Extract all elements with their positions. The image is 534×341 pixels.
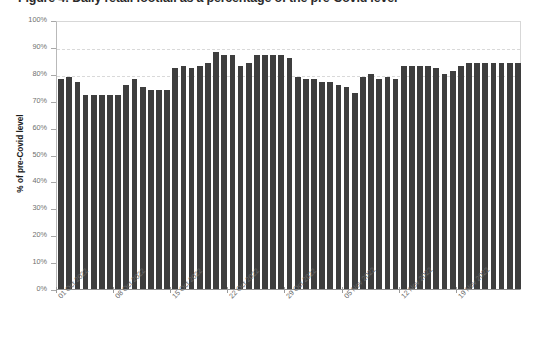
bar [450,71,456,289]
y-tick-label: 10% [32,257,47,266]
bar [123,85,129,289]
bar [213,52,219,289]
bar [156,90,162,289]
plot-area [56,21,521,290]
bar [409,66,415,289]
bar [205,63,211,289]
y-tick-label: 100% [28,15,47,24]
bar [491,63,497,289]
chart-figure: Figure 4: Daily retail footfall as a per… [0,0,534,341]
y-tick-label: 0% [36,284,47,293]
bar [458,66,464,289]
bar [221,55,227,289]
bar [442,74,448,289]
bar [148,90,154,289]
y-tick-label: 40% [32,176,47,185]
y-tick-label: 30% [32,203,47,212]
bar [393,79,399,289]
bar [83,95,89,289]
bar [303,79,309,289]
bar [58,79,64,289]
bar [164,90,170,289]
bar [132,79,138,289]
bar [254,55,260,289]
bar [376,79,382,289]
bar [189,68,195,289]
y-tick-label: 60% [32,123,47,132]
figure-title: Figure 4: Daily retail footfall as a per… [18,0,470,6]
bar [91,95,97,289]
bar [311,79,317,289]
bar [75,82,81,289]
bar [295,77,301,290]
bar [515,63,521,289]
bar [246,63,252,289]
bar [433,68,439,289]
bar [466,63,472,289]
bar [417,66,423,289]
bar [401,66,407,289]
y-tick-label: 90% [32,42,47,51]
bar [270,55,276,289]
bar [287,58,293,289]
bar [197,66,203,289]
bar [181,66,187,289]
bar [99,95,105,289]
y-tick-label: 70% [32,96,47,105]
bar [262,55,268,289]
y-tick-label: 80% [32,69,47,78]
bar [425,66,431,289]
bar [344,87,350,289]
bar [474,63,480,289]
bar [385,77,391,290]
bar [238,66,244,289]
bar [482,63,488,289]
bar-series [57,22,520,289]
bar [230,55,236,289]
bar [327,82,333,289]
bar [278,55,284,289]
y-tick-label: 50% [32,150,47,159]
bar [507,63,513,289]
bar [115,95,121,289]
bar [140,87,146,289]
bar [360,77,366,290]
bar [319,82,325,289]
x-axis: 01 Oct 202208 Oct 202215 Oct 202222 Oct … [56,290,521,341]
bar [499,63,505,289]
figure-title-text: Figure 4: Daily retail footfall as a per… [18,0,397,5]
y-axis-title: % of pre-Covid level [16,64,25,244]
y-axis: % of pre-Covid level 0%10%20%30%40%50%60… [0,21,56,290]
bar [172,68,178,289]
bar [107,95,113,289]
bar [66,77,72,290]
y-tick-label: 20% [32,230,47,239]
bar [352,93,358,289]
bar [336,85,342,289]
bar [368,74,374,289]
